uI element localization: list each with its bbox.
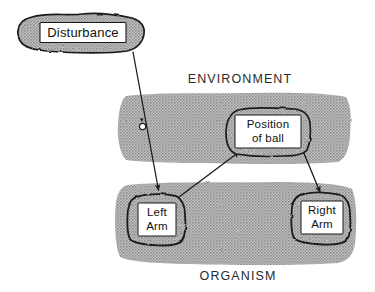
diagram-canvas: ENVIRONMENT ORGANISM	[0, 0, 375, 292]
right-arm-label-line1: Right	[308, 204, 336, 216]
disturbance-label: Disturbance	[47, 25, 119, 40]
environment-label: ENVIRONMENT	[188, 72, 292, 86]
right-arm-label-line2: Arm	[311, 218, 333, 230]
organism-label: ORGANISM	[200, 269, 277, 283]
node-disturbance[interactable]: Disturbance	[18, 13, 144, 53]
diagram-svg: ENVIRONMENT ORGANISM	[0, 0, 375, 292]
position-of-ball-label-line1: Position	[247, 118, 290, 130]
node-left-arm[interactable]: Left Arm	[127, 194, 185, 245]
left-arm-label-line2: Arm	[146, 220, 168, 232]
node-right-arm[interactable]: Right Arm	[291, 192, 350, 244]
node-position-of-ball[interactable]: Position of ball	[226, 108, 310, 157]
position-of-ball-label-line2: of ball	[252, 132, 284, 144]
circle-marker-icon	[140, 123, 146, 129]
left-arm-label-line1: Left	[147, 206, 168, 218]
